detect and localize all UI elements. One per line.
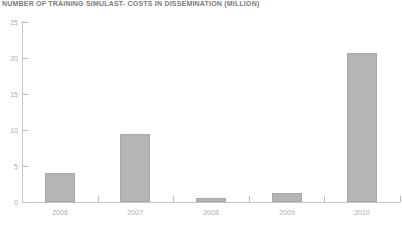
chart-panel: NUMBER OF TRAINING SIMULAST- COSTS IN DI…	[0, 0, 402, 228]
x-tick-label: 2006	[40, 209, 80, 217]
y-tick-label: 20	[4, 55, 18, 62]
y-tick	[23, 166, 28, 167]
bar-2009	[272, 193, 302, 202]
y-tick-label: 15	[4, 91, 18, 98]
y-tick-label: 5	[4, 163, 18, 170]
x-axis-line	[22, 202, 400, 203]
x-tick	[324, 196, 325, 202]
x-tick	[98, 196, 99, 202]
y-tick	[23, 130, 28, 131]
bar-2008	[196, 198, 226, 202]
x-tick	[173, 196, 174, 202]
x-tick	[249, 196, 250, 202]
chart-title: NUMBER OF TRAINING SIMULAST- COSTS IN DI…	[2, 0, 259, 7]
y-tick	[23, 94, 28, 95]
y-tick-label: 10	[4, 127, 18, 134]
bar-2006	[45, 173, 75, 202]
y-axis-line	[22, 21, 23, 203]
bar-2007	[120, 134, 150, 202]
x-tick	[400, 196, 401, 202]
x-tick-label: 2008	[191, 209, 231, 217]
y-tick-label: 25	[4, 19, 18, 26]
y-tick	[23, 22, 28, 23]
x-tick-label: 2010	[342, 209, 382, 217]
x-tick-label: 2009	[267, 209, 307, 217]
y-tick-label: 0	[4, 199, 18, 206]
x-tick-label: 2007	[115, 209, 155, 217]
bar-2010	[347, 53, 377, 202]
y-tick	[23, 58, 28, 59]
y-tick	[23, 202, 28, 203]
